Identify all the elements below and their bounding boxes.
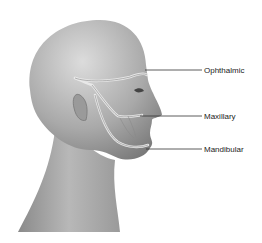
- label-ophthalmic: Ophthalmic: [204, 66, 244, 75]
- head-illustration: [0, 0, 262, 243]
- label-mandibular: Mandibular: [204, 145, 244, 154]
- label-maxillary: Maxillary: [204, 112, 236, 121]
